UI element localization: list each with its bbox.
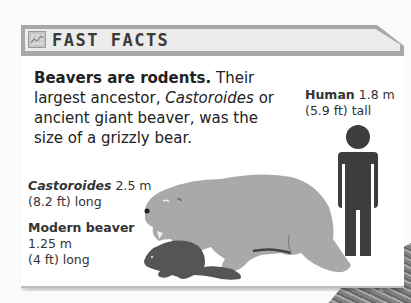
panel-header-inner: FAST FACTS bbox=[25, 29, 400, 51]
human-size-m: 1.8 m bbox=[359, 87, 395, 102]
human-size-ft: (5.9 ft) tall bbox=[305, 103, 371, 118]
castoroides-size-ft: (8.2 ft) long bbox=[28, 194, 102, 209]
intro-paragraph: Beavers are rodents. Their largest ances… bbox=[34, 68, 279, 148]
castoroides-label: Castoroides 2.5 m (8.2 ft) long bbox=[28, 178, 152, 210]
intro-lead: Beavers are rodents. bbox=[34, 69, 211, 87]
modern-beaver-label: Modern beaver 1.25 m (4 ft) long bbox=[28, 220, 135, 268]
intro-species-name: Castoroides bbox=[165, 89, 254, 107]
modern-beaver-size-m: 1.25 m bbox=[28, 236, 72, 251]
chart-icon bbox=[28, 31, 46, 48]
human-name: Human bbox=[305, 87, 355, 102]
fast-facts-panel: FAST FACTS Beavers are rodents. Their la… bbox=[21, 25, 404, 286]
modern-beaver-name: Modern beaver bbox=[28, 220, 135, 235]
human-label: Human 1.8 m (5.9 ft) tall bbox=[305, 87, 395, 119]
panel-title: FAST FACTS bbox=[52, 30, 169, 50]
panel-header: FAST FACTS bbox=[21, 25, 404, 56]
modern-beaver-size-ft: (4 ft) long bbox=[28, 252, 90, 267]
castoroides-name: Castoroides bbox=[28, 178, 112, 193]
modern-beaver-silhouette-icon bbox=[142, 235, 244, 281]
